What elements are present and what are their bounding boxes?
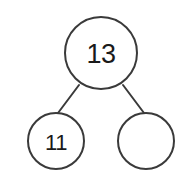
number-bond-diagram: 13 11 [0, 0, 187, 186]
whole-circle-label: 13 [86, 39, 115, 69]
number-bond-svg: 13 11 [0, 0, 187, 186]
connector-whole-to-right-part [123, 85, 144, 113]
part-circle-right[interactable] [118, 113, 174, 169]
connector-whole-to-left-part [58, 85, 79, 113]
part-circle-left-label: 11 [45, 130, 67, 155]
